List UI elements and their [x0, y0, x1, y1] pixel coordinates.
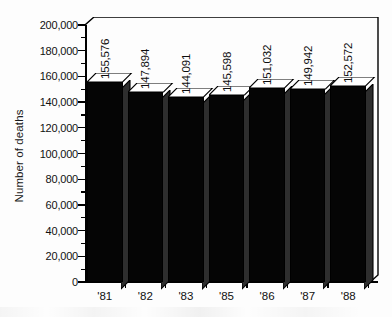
- bar-value-label: 155,576: [99, 39, 111, 79]
- x-axis-category-label: '81: [97, 290, 112, 302]
- y-axis-tick-label: 60,000: [16, 199, 78, 211]
- bar-value-label: 152,572: [342, 43, 354, 83]
- bar: [128, 92, 164, 282]
- bar: [209, 95, 245, 282]
- y-axis-tick-label: 40,000: [16, 225, 78, 237]
- bar: [330, 86, 366, 282]
- bar-value-label: 147,894: [139, 49, 151, 89]
- y-axis-tick-label: 80,000: [16, 173, 78, 185]
- y-axis-tick-label: 200,000: [16, 19, 78, 31]
- x-axis-category-label: '85: [219, 290, 234, 302]
- y-axis-tick-label: 100,000: [16, 148, 78, 160]
- x-axis-category-label: '82: [138, 290, 153, 302]
- y-axis-tick-label: 120,000: [16, 122, 78, 134]
- bar-front-face: [128, 92, 164, 282]
- bar-front-face: [209, 95, 245, 282]
- bar-front-face: [330, 86, 366, 282]
- bar-value-label: 145,598: [221, 52, 233, 92]
- y-axis-tick-label: 180,000: [16, 45, 78, 57]
- bar: [168, 97, 204, 282]
- bar-value-label: 144,091: [180, 54, 192, 94]
- bar-front-face: [249, 88, 285, 282]
- bar: [249, 88, 285, 282]
- bar: [87, 82, 123, 282]
- bar: [290, 89, 326, 282]
- bar-value-label: 149,942: [302, 46, 314, 86]
- bar-front-face: [168, 97, 204, 282]
- bar-front-face: [290, 89, 326, 282]
- y-axis-tick-label: 20,000: [16, 250, 78, 262]
- y-axis-tick-labels: 200,000180,000160,000140,000120,000100,0…: [16, 0, 78, 317]
- x-axis-category-label: '83: [178, 290, 193, 302]
- bar-front-face: [87, 82, 123, 282]
- x-axis-category-label: '86: [260, 290, 275, 302]
- bar-value-label: 151,032: [261, 45, 273, 85]
- y-axis-tick-label: 0: [16, 276, 78, 288]
- y-axis-tick-label: 140,000: [16, 96, 78, 108]
- x-axis-category-label: '88: [341, 290, 356, 302]
- bar-chart: Number of deaths 200,000180,000160,00014…: [0, 0, 392, 317]
- x-axis-category-label: '87: [300, 290, 315, 302]
- y-axis-tick-label: 160,000: [16, 70, 78, 82]
